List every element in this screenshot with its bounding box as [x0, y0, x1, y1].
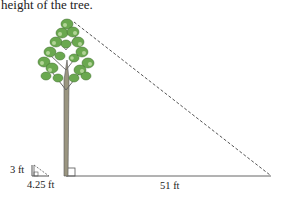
sight-line	[74, 22, 270, 175]
small-triangle	[32, 165, 49, 176]
similar-triangles-diagram	[0, 0, 282, 200]
small-height-label: 3 ft	[10, 164, 24, 175]
large-base-label: 51 ft	[160, 180, 180, 191]
tree-icon	[38, 19, 94, 176]
small-base-label: 4.25 ft	[27, 179, 54, 190]
